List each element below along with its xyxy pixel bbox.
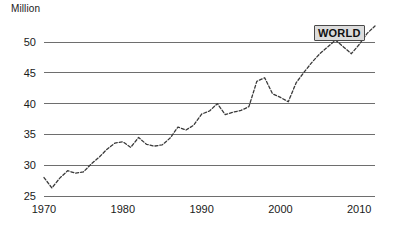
x-tick-label-2000: 2000 bbox=[268, 203, 292, 215]
y-tick-label-25: 25 bbox=[24, 190, 36, 202]
y-tick-label-35: 35 bbox=[24, 128, 36, 140]
x-tick-label-1970: 1970 bbox=[32, 203, 56, 215]
chart-figure: Million 253035404550 1970198019902000201… bbox=[0, 0, 397, 235]
gridlines-group bbox=[44, 42, 375, 196]
y-tick-labels-group: 253035404550 bbox=[24, 36, 36, 202]
data-series-group bbox=[44, 26, 375, 188]
x-tick-label-1980: 1980 bbox=[111, 203, 135, 215]
x-tick-label-1990: 1990 bbox=[189, 203, 213, 215]
y-tick-label-50: 50 bbox=[24, 36, 36, 48]
y-tick-label-30: 30 bbox=[24, 159, 36, 171]
x-tick-labels-group: 19701980199020002010 bbox=[32, 203, 372, 215]
series-label-world: WORLD bbox=[314, 25, 365, 41]
y-tick-label-40: 40 bbox=[24, 98, 36, 110]
y-tick-label-45: 45 bbox=[24, 67, 36, 79]
series-line-world bbox=[44, 26, 375, 188]
x-tick-label-2010: 2010 bbox=[347, 203, 371, 215]
